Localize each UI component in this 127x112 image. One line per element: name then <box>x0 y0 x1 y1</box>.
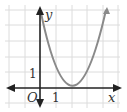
x-tick-label: 1 <box>52 91 60 105</box>
x-axis-label: x <box>108 90 116 105</box>
x-axis-left-arrow-icon <box>6 84 15 92</box>
y-axis-label: y <box>44 7 53 22</box>
parabola-chart: y x O 1 1 <box>0 0 127 112</box>
origin-label: O <box>27 90 38 105</box>
y-tick-label: 1 <box>29 67 37 81</box>
